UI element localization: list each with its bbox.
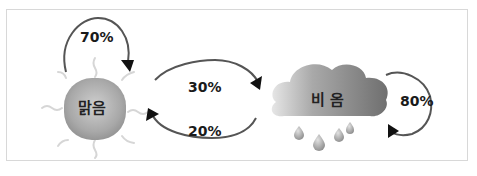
rainy-self-loop-label: 80% — [400, 94, 434, 108]
rainy-to-sunny-arrowhead — [146, 108, 159, 121]
sunny-to-rainy-label: 30% — [188, 80, 222, 94]
transition-diagram — [0, 0, 477, 176]
sunny-self-loop-label: 70% — [80, 30, 114, 44]
sunny-self-loop-arrowhead — [121, 60, 134, 72]
sunny-state-label: 맑음 — [78, 101, 106, 116]
rainy-to-sunny-label: 20% — [188, 124, 222, 138]
rain-drops — [294, 122, 354, 151]
sunny-self-loop-arrow — [64, 18, 128, 72]
rainy-state-label: 비 옴 — [311, 93, 344, 108]
rainy-self-loop-arrowhead — [388, 124, 399, 138]
